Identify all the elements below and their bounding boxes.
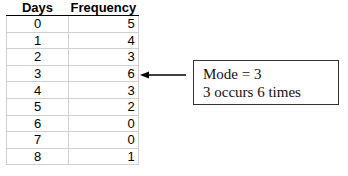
frequency-cell: 3	[69, 82, 139, 99]
table-row: 23	[7, 49, 139, 66]
days-cell: 6	[7, 115, 69, 132]
arrow-left-icon	[140, 70, 188, 80]
table-row: 05	[7, 16, 139, 33]
days-cell: 1	[7, 32, 69, 49]
days-cell: 8	[7, 148, 69, 165]
frequency-cell: 5	[69, 16, 139, 33]
table-row: 14	[7, 32, 139, 49]
frequency-cell: 6	[69, 65, 139, 82]
header-frequency: Frequency	[69, 0, 139, 16]
table-row: 52	[7, 98, 139, 115]
days-cell: 5	[7, 98, 69, 115]
frequency-table: Days Frequency 05 14 23 36 43 52 60 70 8…	[6, 0, 139, 165]
table-header-row: Days Frequency	[7, 0, 139, 16]
days-cell: 2	[7, 49, 69, 66]
table-row: 81	[7, 148, 139, 165]
days-cell: 0	[7, 16, 69, 33]
table-row: 36	[7, 65, 139, 82]
frequency-cell: 3	[69, 49, 139, 66]
table-row: 60	[7, 115, 139, 132]
days-cell: 7	[7, 132, 69, 149]
mode-annotation-line1: Mode = 3	[203, 65, 338, 83]
days-cell: 4	[7, 82, 69, 99]
frequency-cell: 4	[69, 32, 139, 49]
mode-annotation-box: Mode = 3 3 occurs 6 times	[193, 60, 339, 105]
mode-annotation-line2: 3 occurs 6 times	[203, 83, 338, 101]
frequency-cell: 2	[69, 98, 139, 115]
header-days: Days	[7, 0, 69, 16]
frequency-cell: 0	[69, 115, 139, 132]
table-row: 70	[7, 132, 139, 149]
frequency-cell: 1	[69, 148, 139, 165]
days-cell: 3	[7, 65, 69, 82]
table-row: 43	[7, 82, 139, 99]
frequency-cell: 0	[69, 132, 139, 149]
